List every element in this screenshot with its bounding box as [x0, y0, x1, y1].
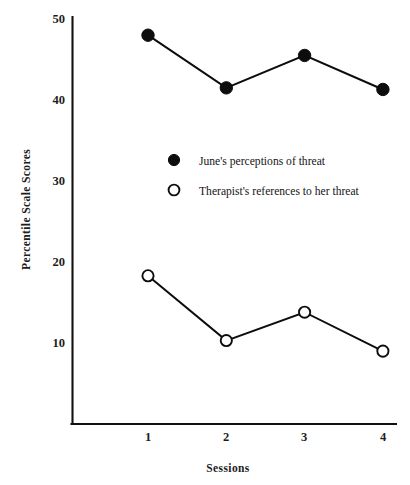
data-point-marker	[299, 307, 310, 318]
x-tick-label-1: 1	[145, 430, 151, 444]
data-point-marker	[142, 270, 153, 281]
x-tick-label-4: 4	[380, 430, 387, 444]
data-point-marker	[221, 335, 232, 346]
y-tick-label-40: 40	[53, 93, 66, 107]
x-tick-label-3: 3	[301, 430, 307, 444]
series-line-june-perceptions	[148, 35, 383, 89]
data-point-marker	[298, 49, 310, 61]
data-point-marker	[377, 346, 388, 357]
y-axis-title: Percentile Scale Scores	[20, 149, 32, 270]
series-line-therapist-references	[148, 276, 383, 351]
chart-legend: June's perceptions of threat Therapist's…	[168, 154, 359, 197]
data-point-marker	[377, 83, 389, 95]
y-tick-label-20: 20	[53, 255, 66, 269]
chart-plot-area: 50 40 30 20 10 1 2 3 4 Percentile Scale …	[0, 0, 410, 485]
legend-marker-open-circle-icon	[169, 185, 180, 196]
series-markers-therapist-references	[142, 270, 388, 357]
x-axis-title: Sessions	[206, 462, 250, 474]
y-tick-label-10: 10	[53, 336, 66, 350]
legend-marker-filled-circle-icon	[168, 154, 179, 165]
y-tick-label-50: 50	[53, 12, 66, 26]
x-tick-label-2: 2	[223, 430, 229, 444]
series-markers-june-perceptions	[142, 29, 389, 96]
chart-figure: 50 40 30 20 10 1 2 3 4 Percentile Scale …	[0, 0, 410, 485]
y-tick-label-30: 30	[53, 174, 66, 188]
data-point-marker	[142, 29, 154, 41]
legend-label-therapist-references: Therapist's references to her threat	[199, 185, 360, 198]
data-point-marker	[220, 82, 232, 94]
legend-label-june-perceptions: June's perceptions of threat	[199, 155, 326, 168]
